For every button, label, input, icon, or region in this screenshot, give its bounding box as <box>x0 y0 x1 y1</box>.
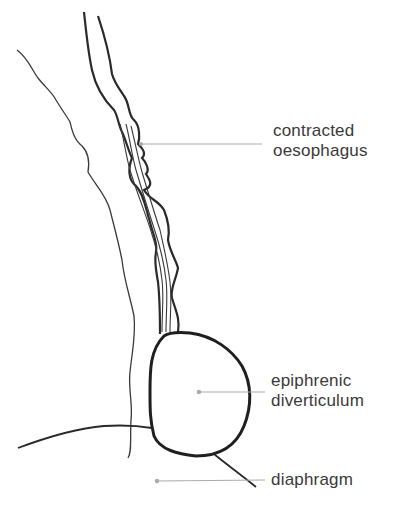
diaphragm-curve <box>18 426 152 448</box>
label-epiphrenic-diverticulum: epiphrenic diverticulum <box>271 371 364 411</box>
diaphragm-right-segment <box>214 454 256 487</box>
oesophagus-lumen-line-1 <box>120 124 163 332</box>
oesophagus-lumen-line-2 <box>126 124 167 332</box>
diverticulum-sac <box>150 332 250 456</box>
oesophagus-left-wall <box>84 12 160 334</box>
label-contracted-oesophagus: contracted oesophagus <box>273 121 368 161</box>
label-diaphragm: diaphragm <box>271 470 353 490</box>
oesophagus-diagram <box>0 0 403 510</box>
label-line: diverticulum <box>271 391 364 411</box>
label-line: oesophagus <box>273 141 368 161</box>
label-line: diaphragm <box>271 470 353 490</box>
label-line: epiphrenic <box>271 371 364 391</box>
body-outline <box>17 50 135 458</box>
label-line: contracted <box>273 121 368 141</box>
